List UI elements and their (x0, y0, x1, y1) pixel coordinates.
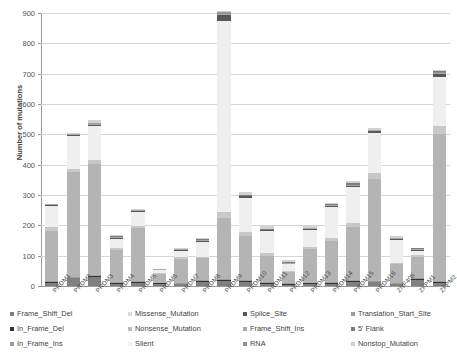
bar-prdm1[interactable] (45, 204, 58, 286)
chart-legend: Frame_Shift_DelMissense_MutationSplice_S… (10, 306, 450, 352)
bar-segment (368, 133, 381, 172)
bar-zfpm1[interactable] (411, 248, 424, 286)
bar-segment (88, 164, 101, 275)
bar-prdm16[interactable] (368, 128, 381, 286)
legend-label: Nonstop_Mutation (358, 339, 418, 348)
legend-label: Silent (135, 339, 154, 348)
legend-item[interactable]: Frame_Shift_Ins (243, 324, 351, 333)
bar-prdm9[interactable] (217, 11, 230, 286)
legend-swatch-icon (128, 327, 132, 331)
legend-swatch-icon (10, 312, 14, 316)
legend-label: Splice_Site (250, 309, 287, 318)
bar-segment (239, 198, 252, 231)
legend-swatch-icon (351, 312, 355, 316)
legend-item[interactable]: RNA (243, 339, 351, 348)
legend-label: RNA (250, 339, 266, 348)
bar-segment (217, 21, 230, 211)
legend-swatch-icon (243, 342, 247, 346)
bar-segment (390, 240, 403, 262)
legend-swatch-icon (128, 342, 132, 346)
bar-segment (346, 187, 359, 223)
legend-item[interactable]: Frame_Shift_Del (10, 309, 128, 318)
legend-swatch-icon (351, 327, 355, 331)
bar-segment (45, 206, 58, 227)
legend-swatch-icon (351, 342, 355, 346)
bar-segment (45, 231, 58, 281)
legend-label: Nonsense_Mutation (135, 324, 201, 333)
bar-segment (131, 212, 144, 226)
legend-swatch-icon (10, 327, 14, 331)
legend-swatch-icon (243, 327, 247, 331)
bar-prdm7[interactable] (174, 248, 187, 286)
bar-series-layer (41, 13, 450, 287)
bar-segment (325, 207, 338, 238)
y-tick-label: 300 (22, 191, 35, 200)
bar-segment (433, 77, 446, 126)
legend-item[interactable]: Nonstop_Mutation (351, 339, 450, 348)
bar-segment (88, 126, 101, 159)
y-tick-label: 900 (22, 9, 35, 18)
y-tick-label: 400 (22, 160, 35, 169)
y-tick-label: 0 (31, 282, 35, 291)
legend-item[interactable]: 5' Flank (351, 324, 450, 333)
legend-label: 5' Flank (358, 324, 384, 333)
bar-prdm2[interactable] (67, 133, 80, 286)
plot-area: 0100200300400500600700800900 (41, 13, 450, 287)
bar-segment (67, 136, 80, 169)
bar-prdm3[interactable] (88, 120, 101, 286)
legend-item[interactable]: Nonsense_Mutation (128, 324, 243, 333)
legend-label: Frame_Shift_Ins (250, 324, 304, 333)
legend-item[interactable]: Missense_Mutation (128, 309, 243, 318)
bar-segment (196, 242, 209, 257)
bar-segment (433, 134, 446, 282)
bar-segment (260, 231, 273, 253)
legend-label: Frame_Shift_Del (17, 309, 72, 318)
y-tick-label: 100 (22, 251, 35, 260)
legend-label: In_Frame_Ins (17, 339, 63, 348)
bar-segment (303, 230, 316, 247)
legend-item[interactable]: Silent (128, 339, 243, 348)
legend-item[interactable]: In_Frame_Ins (10, 339, 128, 348)
legend-swatch-icon (243, 312, 247, 316)
legend-item[interactable]: In_Frame_Del (10, 324, 128, 333)
legend-item[interactable]: Splice_Site (243, 309, 351, 318)
bar-segment (217, 218, 230, 279)
y-tick-label: 500 (22, 130, 35, 139)
bar-segment (110, 239, 123, 248)
bar-segment (67, 172, 80, 277)
legend-swatch-icon (128, 312, 132, 316)
y-tick-label: 600 (22, 100, 35, 109)
y-tick-label: 200 (22, 221, 35, 230)
legend-swatch-icon (10, 342, 14, 346)
bar-segment (368, 173, 381, 180)
bar-prdm10[interactable] (239, 192, 252, 286)
legend-label: In_Frame_Del (17, 324, 64, 333)
legend-label: Missense_Mutation (135, 309, 199, 318)
y-tick-label: 700 (22, 69, 35, 78)
bar-segment (433, 126, 446, 133)
y-tick-label: 800 (22, 39, 35, 48)
legend-item[interactable]: Translation_Start_Site (351, 309, 450, 318)
bar-zfpm2[interactable] (433, 70, 446, 286)
legend-label: Translation_Start_Site (358, 309, 431, 318)
bar-segment (174, 259, 187, 283)
chart-root: Number of mutations 01002003004005006007… (0, 0, 457, 356)
bar-segment (368, 179, 381, 280)
bar-segment (131, 228, 144, 281)
